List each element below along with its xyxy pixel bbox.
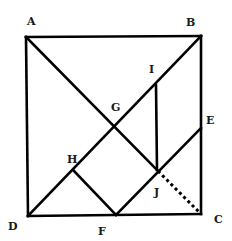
label-C: C	[214, 213, 223, 226]
label-I: I	[149, 63, 154, 76]
segment-HF	[73, 170, 116, 215]
tangram-diagram: A B I G E H J D F C	[0, 0, 232, 241]
label-E: E	[206, 114, 214, 127]
segment-DA	[26, 37, 28, 216]
label-H: H	[67, 153, 77, 166]
label-B: B	[186, 16, 195, 29]
label-A: A	[26, 15, 36, 28]
label-D: D	[8, 220, 18, 233]
label-J: J	[153, 186, 159, 199]
segment-IJ	[156, 85, 157, 170]
label-G: G	[111, 101, 120, 114]
segment-JC-dashed	[158, 171, 200, 213]
segment-AB	[26, 36, 201, 37]
label-F: F	[98, 225, 106, 238]
